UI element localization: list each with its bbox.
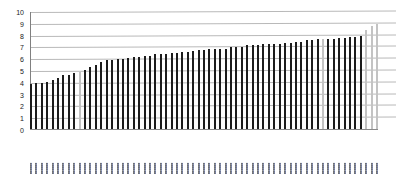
x-axis-label: ██████ — [171, 132, 173, 174]
x-axis-label: ██████ — [52, 132, 54, 174]
bar — [89, 67, 91, 130]
y-axis-tick: 10 — [16, 9, 24, 16]
bar — [122, 59, 124, 130]
y-axis-tick: 0 — [20, 127, 24, 134]
x-axis-label: ██████ — [192, 132, 194, 174]
x-axis-label: ██████ — [111, 132, 113, 174]
bar — [290, 43, 292, 130]
bar — [311, 40, 313, 130]
bar — [57, 78, 59, 130]
x-axis-label: ██████ — [371, 132, 373, 174]
x-axis-label: ██████ — [354, 132, 356, 174]
bar — [30, 84, 32, 130]
bar — [354, 37, 356, 130]
bar — [171, 53, 173, 130]
y-axis-tick: 9 — [20, 20, 24, 27]
bar — [349, 37, 351, 130]
bar — [127, 58, 129, 130]
bar — [192, 51, 194, 130]
x-axis-label: ██████ — [241, 132, 243, 174]
x-axis-label: ██████ — [268, 132, 270, 174]
bar — [106, 60, 108, 130]
bar — [365, 30, 367, 130]
x-axis-label: ██████ — [117, 132, 119, 174]
bar — [117, 59, 119, 130]
bar-chart: 109876543210 ███████████████████████████… — [0, 0, 396, 175]
x-axis-label: ██████ — [176, 132, 178, 174]
y-axis: 109876543210 — [0, 12, 28, 130]
y-axis-tick: 5 — [20, 68, 24, 75]
bar — [235, 47, 237, 130]
bar — [214, 49, 216, 130]
x-axis-label: ██████ — [100, 132, 102, 174]
x-axis-label: ██████ — [133, 132, 135, 174]
x-axis-label: ██████ — [149, 132, 151, 174]
bar — [46, 82, 48, 130]
bar — [252, 45, 254, 130]
x-axis-label: ██████ — [30, 132, 32, 174]
bar — [230, 47, 232, 130]
x-axis-label: ██████ — [79, 132, 81, 174]
bar — [41, 83, 43, 130]
x-axis-label: ██████ — [349, 132, 351, 174]
x-axis-line — [30, 129, 378, 130]
x-axis-label: ██████ — [327, 132, 329, 174]
x-axis-label: ██████ — [290, 132, 292, 174]
bar — [360, 36, 362, 130]
bar — [187, 52, 189, 130]
x-axis-label: ██████ — [273, 132, 275, 174]
x-axis-label: ██████ — [252, 132, 254, 174]
bar — [344, 38, 346, 130]
x-axis-label: ██████ — [181, 132, 183, 174]
bar — [295, 42, 297, 131]
bar — [338, 38, 340, 130]
bar — [149, 56, 151, 130]
x-axis-label: ██████ — [57, 132, 59, 174]
bar — [273, 44, 275, 130]
x-axis-label: ██████ — [138, 132, 140, 174]
x-axis-label: ██████ — [279, 132, 281, 174]
x-axis-label: ██████ — [73, 132, 75, 174]
x-axis-label: ██████ — [214, 132, 216, 174]
x-axis-label: ██████ — [165, 132, 167, 174]
bar — [208, 49, 210, 130]
bar — [322, 39, 324, 130]
bar — [198, 50, 200, 130]
x-axis-label: ██████ — [89, 132, 91, 174]
bar — [79, 72, 81, 130]
bar — [144, 56, 146, 130]
bar — [306, 40, 308, 130]
x-axis-label: ██████ — [317, 132, 319, 174]
x-axis-label: ██████ — [338, 132, 340, 174]
bar — [73, 73, 75, 130]
bar — [35, 83, 37, 130]
bar — [262, 44, 264, 130]
y-axis-tick: 8 — [20, 32, 24, 39]
bar — [371, 26, 373, 130]
bar — [327, 39, 329, 130]
bar — [268, 44, 270, 130]
bar — [52, 80, 54, 130]
x-axis-label: ██████ — [84, 132, 86, 174]
x-axis-label: ██████ — [219, 132, 221, 174]
bar — [160, 54, 162, 130]
bar — [154, 54, 156, 130]
bar — [203, 50, 205, 130]
x-axis-label: ██████ — [365, 132, 367, 174]
bar — [176, 53, 178, 130]
x-axis-label: ██████ — [300, 132, 302, 174]
bar — [300, 42, 302, 131]
bar — [95, 65, 97, 130]
x-axis-label: ██████ — [262, 132, 264, 174]
bar — [62, 75, 64, 130]
x-axis-label: ██████ — [257, 132, 259, 174]
bar — [376, 24, 378, 130]
bar — [138, 57, 140, 130]
x-axis-label: ██████ — [311, 132, 313, 174]
x-axis-label: ██████ — [203, 132, 205, 174]
y-axis-tick: 3 — [20, 91, 24, 98]
x-axis-label: ██████ — [295, 132, 297, 174]
bar — [284, 43, 286, 130]
x-axis-label: ██████ — [230, 132, 232, 174]
x-axis-label: ██████ — [284, 132, 286, 174]
